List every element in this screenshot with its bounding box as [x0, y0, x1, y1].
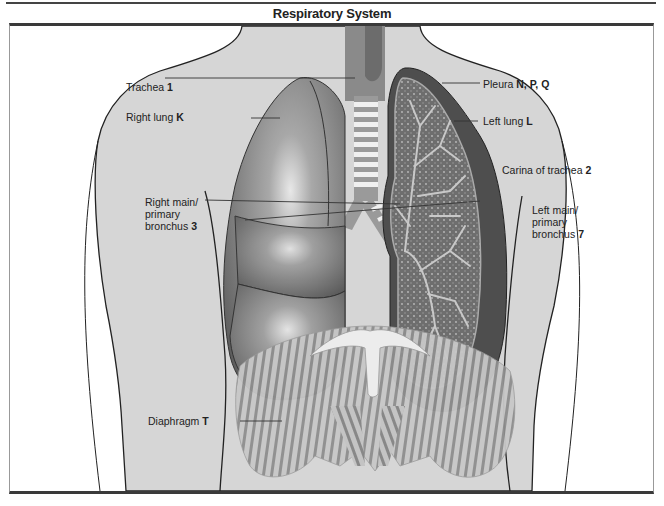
top-rule — [6, 2, 656, 4]
torso-illustration — [10, 26, 653, 491]
label-pleura: Pleura N, P, Q — [483, 78, 549, 90]
label-right-lung: Right lung K — [126, 111, 184, 123]
label-trachea: Trachea 1 — [126, 81, 173, 93]
label-carina: Carina of trachea 2 — [502, 164, 591, 176]
label-left-lung: Left lung L — [483, 115, 533, 127]
label-diaphragm: Diaphragm T — [148, 415, 209, 427]
label-left-main-bronchus: Left main/ primary bronchus 7 — [532, 204, 584, 240]
figure-title: Respiratory System — [0, 6, 664, 21]
label-right-main-bronchus: Right main/ primary bronchus 3 — [145, 196, 198, 232]
diaphragm — [236, 326, 515, 477]
diagram-frame: Trachea 1 Right lung K Right main/ prima… — [9, 23, 654, 494]
